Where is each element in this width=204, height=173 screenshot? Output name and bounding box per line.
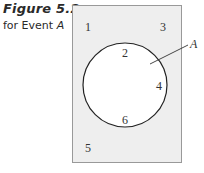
outcome-2: 2 [122, 46, 128, 60]
outcome-1: 1 [85, 20, 91, 34]
outcome-5: 5 [85, 141, 91, 155]
venn-diagram: A 1 3 5 2 4 6 [0, 0, 204, 173]
outcome-3: 3 [160, 20, 166, 34]
event-a-label: A [189, 37, 198, 51]
outcome-6: 6 [122, 113, 128, 127]
outcome-4: 4 [156, 79, 162, 93]
